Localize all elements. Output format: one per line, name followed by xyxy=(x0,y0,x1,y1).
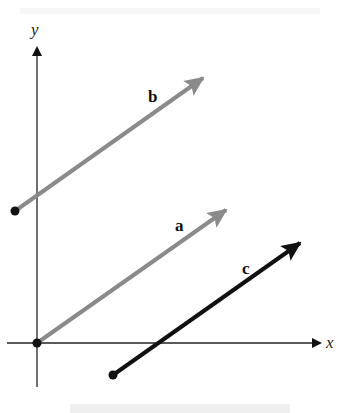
vector-a-label: a xyxy=(175,216,184,235)
y-axis-label: y xyxy=(29,20,39,39)
vector-c xyxy=(109,243,301,380)
vector-c-label: c xyxy=(242,259,250,278)
vector-b-start-point xyxy=(11,207,20,216)
vector-a xyxy=(37,210,226,343)
vector-diagram: y x b a c xyxy=(0,0,342,413)
vector-b-label: b xyxy=(148,87,157,106)
vector-b xyxy=(11,78,204,216)
x-axis-label: x xyxy=(325,333,334,352)
origin-point xyxy=(33,339,42,348)
vector-c-start-point xyxy=(109,371,118,380)
